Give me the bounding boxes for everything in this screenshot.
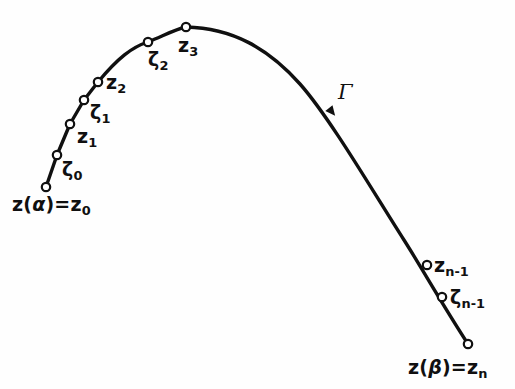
end-result-base: z — [467, 356, 478, 378]
point-marker — [182, 23, 190, 31]
point-marker — [53, 151, 61, 159]
end-result-subscript: n — [478, 366, 487, 381]
start-result-subscript: 0 — [82, 203, 91, 218]
z-n-minus-1-glyph: z — [434, 254, 445, 276]
zeta-2-glyph: ζ — [148, 48, 159, 70]
start-parameter: α — [32, 193, 45, 215]
label-z-n-minus-1: zn-1 — [434, 256, 469, 275]
start-open-paren: ( — [23, 193, 32, 215]
zeta-0-subscript: 0 — [73, 168, 82, 183]
point-marker — [144, 38, 152, 46]
z-1-glyph: z — [77, 125, 88, 147]
label-end-point-equation: z(β)=zn — [408, 358, 487, 377]
z-3-glyph: z — [178, 34, 189, 56]
z-1-subscript: 1 — [88, 135, 97, 150]
end-base: z — [408, 356, 419, 378]
z-3-subscript: 3 — [189, 44, 198, 59]
label-zeta-1: ζ1 — [90, 103, 110, 122]
point-marker — [94, 78, 102, 86]
zeta-n-minus-1-subscript: n-1 — [461, 296, 485, 311]
figure-canvas: ζ0 z1 ζ1 z2 ζ2 z3 zn-1 ζn-1 Γ z(α)=z0 z(… — [0, 0, 515, 389]
z-n-minus-1-subscript: n-1 — [445, 264, 469, 279]
gamma-glyph: Γ — [338, 80, 353, 104]
label-z-1: z1 — [77, 127, 97, 146]
start-close-paren: ) — [45, 193, 54, 215]
point-marker — [438, 293, 446, 301]
point-marker — [464, 340, 472, 348]
label-start-point-equation: z(α)=z0 — [12, 195, 91, 214]
start-equals: = — [54, 193, 70, 215]
z-2-subscript: 2 — [117, 81, 126, 96]
zeta-1-glyph: ζ — [90, 101, 101, 123]
label-z-3: z3 — [178, 36, 198, 55]
start-base: z — [12, 193, 23, 215]
z-2-glyph: z — [106, 71, 117, 93]
end-open-paren: ( — [419, 356, 428, 378]
start-result-base: z — [70, 193, 81, 215]
end-parameter: β — [428, 356, 442, 378]
point-marker — [80, 96, 88, 104]
zeta-n-minus-1-glyph: ζ — [450, 286, 461, 308]
zeta-0-glyph: ζ — [62, 158, 73, 180]
direction-arrowhead-icon — [325, 105, 335, 116]
zeta-1-subscript: 1 — [101, 111, 110, 126]
zeta-2-subscript: 2 — [159, 58, 168, 73]
label-zeta-n-minus-1: ζn-1 — [450, 288, 485, 307]
label-zeta-0: ζ0 — [62, 160, 82, 179]
end-close-paren: ) — [442, 356, 451, 378]
point-marker — [42, 183, 50, 191]
end-equals: = — [451, 356, 467, 378]
label-zeta-2: ζ2 — [148, 50, 168, 69]
label-gamma-curve-name: Γ — [338, 82, 353, 103]
point-marker — [66, 120, 74, 128]
label-z-2: z2 — [106, 73, 126, 92]
point-marker — [423, 261, 431, 269]
